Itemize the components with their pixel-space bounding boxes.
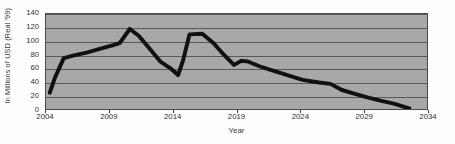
x-tick-label-2009: 2009 — [100, 113, 117, 121]
y-tick-label-20: 20 — [31, 92, 39, 100]
y-axis-title: In Millions of USD (Real '99) — [0, 0, 16, 112]
y-tick-label-40: 40 — [31, 78, 39, 86]
y-tick-label-100: 100 — [26, 37, 39, 45]
x-tick-label-2014: 2014 — [164, 113, 181, 121]
x-tick-label-2034: 2034 — [419, 113, 436, 121]
x-axis-title: Year — [45, 126, 428, 135]
x-tick-label-2024: 2024 — [292, 113, 309, 121]
y-tick-label-60: 60 — [31, 65, 39, 73]
x-tick-label-2029: 2029 — [355, 113, 372, 121]
y-tick-label-80: 80 — [31, 51, 39, 59]
x-tick-label-2004: 2004 — [36, 113, 53, 121]
y-tick-label-140: 140 — [26, 9, 39, 17]
series-path — [50, 29, 409, 108]
y-axis-tick-labels: 020406080100120140 — [16, 13, 42, 110]
series-line-revenue — [46, 14, 427, 109]
y-axis-title-text: In Millions of USD (Real '99) — [4, 8, 11, 104]
y-tick-label-120: 120 — [26, 23, 39, 31]
line-chart-figure: In Millions of USD (Real '99) 0204060801… — [0, 0, 455, 144]
x-tick-label-2019: 2019 — [228, 113, 245, 121]
plot-area — [45, 13, 428, 110]
